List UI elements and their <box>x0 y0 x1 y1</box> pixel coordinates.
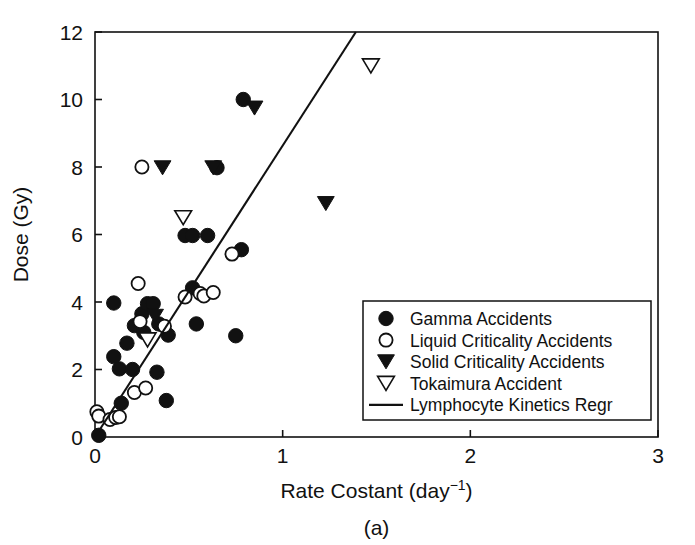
data-point <box>317 197 334 211</box>
y-axis-title: Dose (Gy) <box>9 187 32 283</box>
x-axis-title-base: Rate Costant (day <box>280 479 450 502</box>
series-gamma-accidents <box>92 92 251 442</box>
y-tick-label: 10 <box>60 88 83 111</box>
x-axis-title-exponent: −1 <box>450 477 466 493</box>
data-point <box>200 228 214 242</box>
y-tick-label: 8 <box>71 156 83 179</box>
data-point <box>189 317 203 331</box>
legend-item-2[interactable]: Solid Criticality Accidents <box>378 352 605 372</box>
y-tick-label: 6 <box>71 223 83 246</box>
figure-container: 0123024681012 Gamma AccidentsLiquid Crit… <box>0 0 695 545</box>
series-liquid-criticality-accidents <box>90 160 238 426</box>
data-point <box>120 336 134 350</box>
data-point <box>154 161 171 175</box>
data-point <box>150 365 164 379</box>
legend-item-label: Tokaimura Accident <box>410 374 562 394</box>
data-point <box>246 101 263 115</box>
data-point <box>225 247 238 260</box>
legend-marker-filled-circle-icon <box>379 311 393 325</box>
data-point <box>135 160 148 173</box>
legend-item-label: Solid Criticality Accidents <box>410 352 605 372</box>
legend-item-label: Liquid Criticality Accidents <box>410 331 613 351</box>
legend-item-label: Gamma Accidents <box>410 309 552 329</box>
x-tick-label: 3 <box>652 444 664 467</box>
x-tick-label: 2 <box>464 444 476 467</box>
legend-item-1[interactable]: Liquid Criticality Accidents <box>379 331 612 351</box>
data-point <box>159 393 173 407</box>
data-point <box>107 296 121 310</box>
x-tick-label: 0 <box>89 444 101 467</box>
legend-marker-open-circle-icon <box>379 334 392 347</box>
data-point <box>362 59 379 73</box>
y-tick-label: 4 <box>71 291 83 314</box>
regression-line-layer <box>95 32 356 437</box>
data-point <box>113 410 126 423</box>
panel-label: (a) <box>364 516 390 539</box>
data-point <box>133 315 146 328</box>
chart-legend: Gamma AccidentsLiquid Criticality Accide… <box>363 301 651 420</box>
data-point <box>185 228 199 242</box>
data-point <box>175 211 192 225</box>
data-point <box>229 329 243 343</box>
x-axis-title: Rate Costant (day−1) <box>280 477 472 502</box>
x-tick-label: 1 <box>277 444 289 467</box>
data-point <box>132 277 145 290</box>
y-tick-label: 0 <box>71 426 83 449</box>
y-tick-label: 2 <box>71 358 83 381</box>
y-tick-label: 12 <box>60 21 83 44</box>
regression-line <box>95 32 356 437</box>
data-point <box>139 381 152 394</box>
legend-item-label: Lymphocyte Kinetics Regr <box>410 395 613 415</box>
x-axis-title-tail: ) <box>466 479 473 502</box>
data-point <box>112 362 126 376</box>
scatter-chart: 0123024681012 Gamma AccidentsLiquid Crit… <box>0 0 695 545</box>
data-points-layer <box>90 59 379 443</box>
data-point <box>146 296 160 310</box>
data-point <box>207 286 220 299</box>
